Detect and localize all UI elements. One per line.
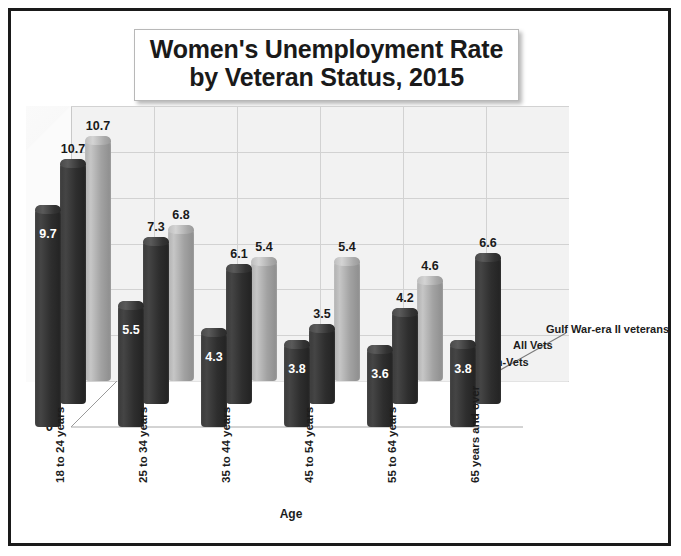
bar-cap — [309, 324, 335, 333]
bar-all-vets-18-to-24-years — [60, 159, 86, 404]
bar-value-label: 6.1 — [219, 247, 259, 261]
bar-cap — [118, 301, 144, 310]
bar-value-label: 5.4 — [327, 240, 367, 254]
bar-cap — [143, 237, 169, 246]
series-axis-label-gulf-war-era-ii-veterans: Gulf War-era II veterans — [546, 323, 669, 335]
bar-value-label: 3.5 — [302, 307, 342, 321]
bar-cap — [201, 328, 227, 337]
bar-value-label: 5.5 — [111, 323, 151, 337]
chart-title-line-1: Women's Unemployment Rate — [143, 35, 510, 63]
bar-all-vets-65-years-and-over — [475, 253, 501, 404]
bar-value-label: 9.7 — [28, 227, 68, 241]
x-category-35-to-44-years: 35 to 44 years — [220, 407, 232, 483]
bar-all-vets-35-to-44-years — [226, 264, 252, 404]
bar-cap — [284, 340, 310, 349]
chart-title-line-2: by Veteran Status, 2015 — [143, 63, 510, 91]
chart-frame: Women's Unemployment Rate by Veteran Sta… — [8, 8, 671, 546]
bar-gulf-war-era-ii-veterans-25-to-34-years — [168, 225, 194, 381]
bar-value-label: 7.3 — [136, 220, 176, 234]
bar-cap — [226, 264, 252, 273]
bar-value-label: 10.7 — [78, 119, 118, 133]
x-category-55-to-64-years: 55 to 64 years — [386, 407, 398, 483]
bar-all-vets-25-to-34-years — [143, 237, 169, 404]
bar-cap — [417, 276, 443, 285]
x-category-18-to-24-years: 18 to 24 years — [54, 407, 66, 483]
bar-cap — [35, 205, 61, 214]
bar-cap — [475, 253, 501, 262]
x-category-45-to-54-years: 45 to 54 years — [303, 407, 315, 483]
bar-all-vets-55-to-64-years — [392, 308, 418, 404]
bar-cap — [367, 345, 393, 354]
chart-title: Women's Unemployment Rate by Veteran Sta… — [134, 29, 519, 101]
bar-value-label: 4.2 — [385, 291, 425, 305]
series-axis-label-all-vets: All Vets — [513, 339, 553, 351]
bar-cap — [334, 257, 360, 266]
x-axis-label: Age — [11, 507, 571, 521]
bar-value-label: 3.8 — [277, 362, 317, 376]
bar-gulf-war-era-ii-veterans-35-to-44-years — [251, 257, 277, 381]
bar-value-label: 3.6 — [360, 367, 400, 381]
x-category-25-to-34-years: 25 to 34 years — [137, 407, 149, 483]
bar-cap — [450, 340, 476, 349]
bar-value-label: 10.7 — [53, 142, 93, 156]
x-category-65-years-and-over: 65 years and over — [469, 386, 481, 483]
bar-value-label: 4.6 — [410, 259, 450, 273]
bar-gulf-war-era-ii-veterans-18-to-24-years — [85, 136, 111, 381]
bar-value-label: 6.6 — [468, 236, 508, 250]
bar-value-label: 4.3 — [194, 350, 234, 364]
bar-cap — [60, 159, 86, 168]
bar-value-label: 3.8 — [443, 362, 483, 376]
bar-cap — [392, 308, 418, 317]
